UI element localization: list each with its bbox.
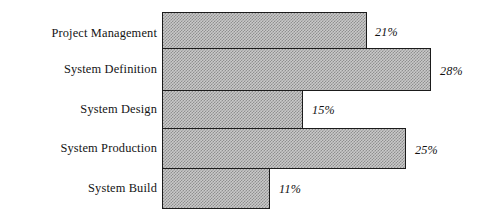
category-label-system-production: System Production xyxy=(7,142,157,154)
plot-area xyxy=(162,12,432,209)
category-label-system-design: System Design xyxy=(7,103,157,115)
bar-chart: Project Management System Definition Sys… xyxy=(0,0,495,222)
value-label-system-design: 15% xyxy=(312,104,335,116)
value-label-project-management: 21% xyxy=(375,26,398,38)
bar-system-production xyxy=(162,128,406,169)
value-label-system-definition: 28% xyxy=(440,65,463,77)
value-label-system-production: 25% xyxy=(415,144,438,156)
category-label-system-definition: System Definition xyxy=(7,63,157,75)
value-label-system-build: 11% xyxy=(279,183,301,195)
bar-system-build xyxy=(162,168,270,209)
bar-project-management xyxy=(162,12,367,49)
bar-system-design xyxy=(162,90,303,129)
category-label-system-build: System Build xyxy=(7,182,157,194)
bar-system-definition xyxy=(162,48,431,91)
category-label-project-management: Project Management xyxy=(7,27,157,39)
